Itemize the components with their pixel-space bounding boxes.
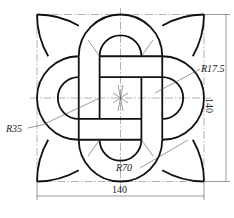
knot-drawing: 140 140 R17.5 R35 R70	[0, 0, 234, 218]
r70-label: R70	[115, 162, 132, 173]
width-dimension-label: 140	[112, 184, 127, 195]
r35-label: R35	[5, 123, 22, 134]
r17-5-label: R17.5	[200, 63, 225, 74]
height-dimension-label: 140	[204, 98, 215, 113]
